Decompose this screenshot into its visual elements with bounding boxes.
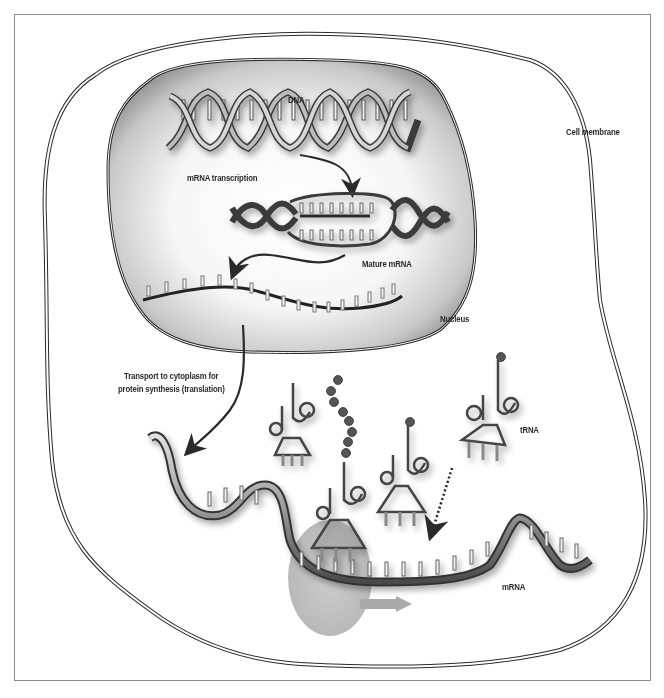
cytoplasm-mrna <box>150 436 590 582</box>
trna-2-chain <box>312 462 365 562</box>
label-mrna: mRNA <box>502 581 525 592</box>
label-transport-line2: protein synthesis (translation) <box>118 383 225 394</box>
label-mrna-transcription: mRNA transcription <box>187 172 257 183</box>
label-mature-mrna: Mature mRNA <box>362 258 412 269</box>
trna-1 <box>270 383 314 466</box>
label-dna: DNA <box>288 94 304 105</box>
trna-4 <box>462 360 518 461</box>
label-trna: tRNA <box>520 424 539 435</box>
label-cell-membrane: Cell membrane <box>566 126 620 137</box>
gene-expression-diagram <box>0 0 664 698</box>
trna-approach-arrow <box>432 468 452 532</box>
label-nucleus: Nucleus <box>440 313 469 324</box>
trna-3 <box>378 425 428 526</box>
label-transport-line1: Transport to cytoplasm for <box>124 370 218 381</box>
